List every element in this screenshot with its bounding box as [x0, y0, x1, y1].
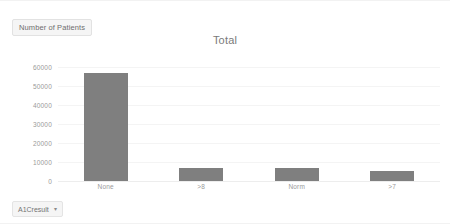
- axis-field-label: A1Cresult: [18, 206, 49, 213]
- axis-field-button[interactable]: A1Cresult ▾: [12, 201, 63, 217]
- y-axis: 0100002000030000400005000060000: [8, 67, 52, 181]
- y-axis-tick-label: 0: [8, 178, 52, 185]
- y-axis-tick-label: 20000: [8, 140, 52, 147]
- plot-area: [58, 67, 440, 181]
- x-axis-tick-label: Norm: [262, 183, 332, 190]
- bar[interactable]: [370, 171, 414, 181]
- chevron-down-icon: ▾: [54, 206, 57, 212]
- chart-visual-card: Number of Patients Total 010000200003000…: [0, 0, 450, 224]
- x-axis-tick-label: >8: [166, 183, 236, 190]
- bar[interactable]: [275, 168, 319, 181]
- legend-badge-label: Number of Patients: [19, 23, 85, 32]
- y-axis-tick-label: 40000: [8, 102, 52, 109]
- x-axis: None>8Norm>7: [58, 183, 440, 197]
- bar[interactable]: [179, 168, 223, 181]
- gridline: [58, 181, 440, 182]
- bar[interactable]: [84, 73, 128, 181]
- y-axis-tick-label: 30000: [8, 121, 52, 128]
- y-axis-tick-label: 60000: [8, 64, 52, 71]
- y-axis-tick-label: 50000: [8, 83, 52, 90]
- gridline: [58, 67, 440, 68]
- y-axis-tick-label: 10000: [8, 159, 52, 166]
- x-axis-tick-label: None: [71, 183, 141, 190]
- x-axis-tick-label: >7: [357, 183, 427, 190]
- chart-title: Total: [0, 34, 450, 46]
